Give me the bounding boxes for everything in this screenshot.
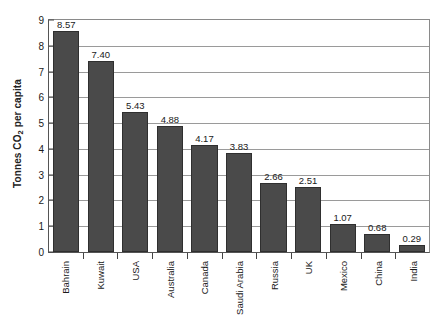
- x-axis-category-label: India: [407, 261, 418, 282]
- bar-slot: 8.57: [49, 20, 84, 252]
- bar[interactable]: [226, 153, 252, 252]
- x-axis-category-label: UK: [303, 261, 314, 274]
- y-axis-tick-label: 9: [38, 15, 44, 26]
- y-axis-tick-label: 5: [38, 118, 44, 129]
- x-axis-category-label: Mexico: [338, 261, 349, 291]
- bar-slot: 3.83: [222, 20, 257, 252]
- bar[interactable]: [399, 245, 425, 252]
- x-axis-category-slot: Russia: [256, 259, 291, 329]
- x-axis-category-slot: Saudi Arabia: [222, 259, 257, 329]
- chart-title: [0, 0, 444, 3]
- x-axis-category-label: China: [372, 261, 383, 286]
- y-axis-title-suffix: per capita: [12, 79, 23, 130]
- plot-area: 0123456789 8.577.405.434.884.173.832.662…: [48, 19, 430, 253]
- x-axis-category-label: Kuwait: [95, 261, 106, 290]
- x-axis-category-slot: India: [395, 259, 430, 329]
- y-axis-title-prefix: Tonnes CO: [12, 134, 23, 188]
- x-axis-category-slot: Mexico: [326, 259, 361, 329]
- bar-slot: 4.17: [187, 20, 222, 252]
- x-axis-category-label: Canada: [199, 261, 210, 294]
- bar[interactable]: [122, 112, 148, 252]
- bar-value-label: 2.66: [256, 171, 291, 182]
- bar-slot: 7.40: [84, 20, 119, 252]
- y-axis-tick-label: 2: [38, 195, 44, 206]
- y-axis-tick-label: 4: [38, 143, 44, 154]
- y-axis-tick-label: 6: [38, 92, 44, 103]
- bar[interactable]: [260, 183, 286, 252]
- x-axis-category-label: USA: [129, 261, 140, 281]
- bar-value-label: 5.43: [118, 100, 153, 111]
- x-axis-category-slot: Australia: [152, 259, 187, 329]
- x-axis-category-slot: Bahrain: [48, 259, 83, 329]
- bar-value-label: 4.88: [153, 114, 188, 125]
- x-axis-category-slot: UK: [291, 259, 326, 329]
- bar[interactable]: [88, 61, 114, 252]
- y-axis-tick-label: 7: [38, 66, 44, 77]
- x-axis-category-label: Australia: [164, 261, 175, 298]
- y-axis-tick-label: 8: [38, 40, 44, 51]
- bar[interactable]: [157, 126, 183, 252]
- bar-value-label: 0.29: [394, 233, 429, 244]
- y-axis-tick-label: 1: [38, 221, 44, 232]
- bar-value-label: 4.17: [187, 133, 222, 144]
- x-axis-labels-layer: BahrainKuwaitUSAAustraliaCanadaSaudi Ara…: [48, 259, 430, 329]
- y-axis-title-subscript: 2: [16, 130, 25, 134]
- y-axis-tick-label: 0: [38, 247, 44, 258]
- y-axis-title: Tonnes CO2 per capita: [12, 44, 23, 224]
- bar[interactable]: [53, 31, 79, 252]
- bar-value-label: 7.40: [84, 49, 119, 60]
- bar-chart-figure: Tonnes CO2 per capita 0123456789 8.577.4…: [0, 0, 444, 329]
- x-axis-category-slot: Kuwait: [83, 259, 118, 329]
- bar-slot: 1.07: [325, 20, 360, 252]
- bar-slot: 2.66: [256, 20, 291, 252]
- bar-value-label: 0.68: [360, 222, 395, 233]
- bar-slot: 0.29: [394, 20, 429, 252]
- x-axis-category-slot: USA: [117, 259, 152, 329]
- bar-value-label: 8.57: [49, 19, 84, 30]
- y-axis-tick-label: 3: [38, 169, 44, 180]
- bar-slot: 0.68: [360, 20, 395, 252]
- bars-layer: 8.577.405.434.884.173.832.662.511.070.68…: [49, 20, 429, 252]
- bar-slot: 2.51: [291, 20, 326, 252]
- bar[interactable]: [330, 224, 356, 252]
- bar[interactable]: [364, 234, 390, 252]
- bar-value-label: 3.83: [222, 141, 257, 152]
- bar-value-label: 2.51: [291, 175, 326, 186]
- bar-value-label: 1.07: [325, 212, 360, 223]
- x-axis-category-slot: China: [361, 259, 396, 329]
- bar[interactable]: [295, 187, 321, 252]
- bar[interactable]: [191, 145, 217, 252]
- x-axis-category-label: Russia: [268, 261, 279, 290]
- x-axis-category-slot: Canada: [187, 259, 222, 329]
- bar-slot: 4.88: [153, 20, 188, 252]
- x-axis-category-label: Bahrain: [60, 261, 71, 294]
- x-axis-category-label: Saudi Arabia: [233, 261, 244, 315]
- bar-slot: 5.43: [118, 20, 153, 252]
